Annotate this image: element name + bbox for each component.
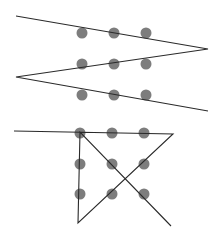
dot xyxy=(141,28,152,39)
dot xyxy=(77,28,88,39)
puzzle-zigzag-solution xyxy=(16,16,208,111)
diagram-svg xyxy=(0,0,213,244)
puzzle-four-line-solution xyxy=(14,128,173,227)
dot xyxy=(139,159,150,170)
dot xyxy=(77,90,88,101)
nine-dots-diagram xyxy=(0,0,213,244)
solution-line xyxy=(14,131,173,226)
dot xyxy=(107,189,118,200)
dot xyxy=(141,59,152,70)
dot xyxy=(109,59,120,70)
dot xyxy=(75,189,86,200)
dot xyxy=(75,159,86,170)
dot xyxy=(107,159,118,170)
